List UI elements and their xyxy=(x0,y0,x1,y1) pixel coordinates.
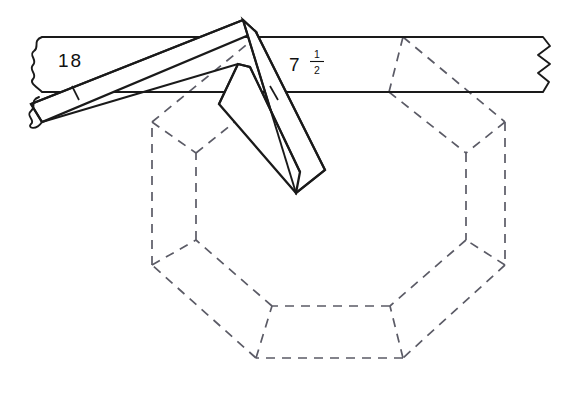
dimension-label-7-and-half: 7 1 2 xyxy=(289,48,324,76)
dimension-label-18: 18 xyxy=(58,50,83,71)
break-line-right xyxy=(538,37,550,92)
dimension-7-whole-text: 7 xyxy=(289,54,302,75)
dimension-fraction-numerator: 1 xyxy=(314,48,320,60)
break-line-left-upper xyxy=(32,37,42,92)
dimension-fraction-denominator: 2 xyxy=(314,64,320,76)
dimension-18-text: 18 xyxy=(58,50,83,71)
diagram-canvas: 18 7 1 2 xyxy=(0,0,574,405)
octagon-frame-layout xyxy=(152,37,505,358)
octagon-outer-outline xyxy=(152,37,505,358)
octagon-mitre-joints xyxy=(152,37,505,358)
octagon-layout-figure: 18 7 1 2 xyxy=(0,0,574,405)
